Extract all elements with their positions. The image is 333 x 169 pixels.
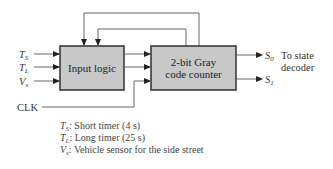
feedback-wire-outer <box>84 13 199 46</box>
output-note-line2: decoder <box>281 62 315 73</box>
input-label-vs: Vs <box>19 76 28 89</box>
output-note-line1: To state <box>281 50 314 61</box>
input-logic-label: Input logic <box>68 62 116 74</box>
output-label-s1: S1 <box>265 74 274 87</box>
counter-label-line1: 2-bit Gray <box>171 56 217 68</box>
block-diagram: Input logic 2-bit Gray code counter TS T… <box>0 0 333 169</box>
clock-label: CLK <box>17 102 38 113</box>
legend: TS: Short timer (4 s) TL: Long timer (25… <box>60 120 204 157</box>
input-label-tl: TL <box>19 62 29 75</box>
output-labels: S0 S1 To state decoder <box>265 50 315 87</box>
input-logic-block: Input logic <box>60 46 124 90</box>
input-wires <box>34 54 59 81</box>
gray-code-counter-block: 2-bit Gray code counter <box>151 46 236 90</box>
input-label-ts: TS <box>19 49 29 62</box>
legend-item-vs: Vs: Vehicle sensor for the side street <box>60 144 204 157</box>
feedback-wires <box>84 13 199 46</box>
output-label-s0: S0 <box>265 50 274 63</box>
output-wires <box>237 55 262 79</box>
counter-label-line2: code counter <box>165 68 222 80</box>
feedback-wire-inner <box>98 29 186 46</box>
